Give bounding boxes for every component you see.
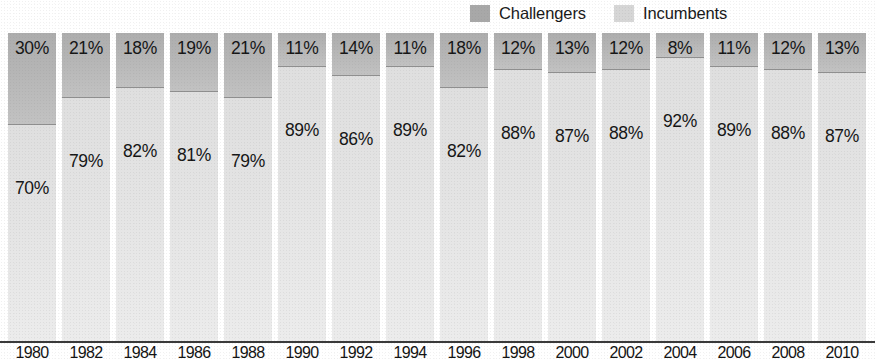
bar-segment-label-incumbents: 79% bbox=[62, 151, 110, 172]
x-axis-tick-label: 1986 bbox=[168, 344, 220, 359]
bar-segment-label-challengers: 12% bbox=[764, 38, 812, 59]
bar-segment-label-incumbents: 89% bbox=[386, 120, 434, 141]
x-axis-tick-label: 1988 bbox=[222, 344, 274, 359]
x-axis-tick-label: 2002 bbox=[600, 344, 652, 359]
bar-segment-challengers: 18% bbox=[116, 33, 164, 88]
bar-segment-label-challengers: 12% bbox=[494, 38, 542, 59]
bar-segment-incumbents: 86% bbox=[332, 76, 380, 341]
stacked-bar: 13%87% bbox=[818, 33, 866, 341]
stacked-bar-chart-figure: Challengers Incumbents 30%70%21%79%18%82… bbox=[0, 0, 875, 359]
bar-segment-label-incumbents: 82% bbox=[440, 141, 488, 162]
bar-column: 21%79% bbox=[224, 33, 272, 341]
stacked-bar: 8%92% bbox=[656, 33, 704, 341]
bar-column: 8%92% bbox=[656, 33, 704, 341]
bar-segment-challengers: 21% bbox=[62, 33, 110, 98]
bar-segment-label-incumbents: 82% bbox=[116, 141, 164, 162]
bar-segment-challengers: 12% bbox=[494, 33, 542, 70]
bar-segment-label-incumbents: 81% bbox=[170, 145, 218, 166]
bar-segment-label-incumbents: 70% bbox=[8, 178, 56, 199]
stacked-bar: 11%89% bbox=[278, 33, 326, 341]
x-axis-tick-label: 1990 bbox=[276, 344, 328, 359]
stacked-bar: 11%89% bbox=[710, 33, 758, 341]
bar-segment-label-incumbents: 88% bbox=[764, 123, 812, 144]
x-axis-tick-label: 1980 bbox=[6, 344, 58, 359]
bar-segment-label-incumbents: 79% bbox=[224, 151, 272, 172]
stacked-bar: 13%87% bbox=[548, 33, 596, 341]
bar-column: 18%82% bbox=[440, 33, 488, 341]
stacked-bar: 18%82% bbox=[440, 33, 488, 341]
bar-segment-label-challengers: 21% bbox=[224, 38, 272, 59]
legend-swatch-incumbents-icon bbox=[614, 5, 634, 22]
stacked-bar: 12%88% bbox=[494, 33, 542, 341]
bar-column: 12%88% bbox=[602, 33, 650, 341]
bar-segment-label-incumbents: 87% bbox=[818, 126, 866, 147]
bar-segment-challengers: 18% bbox=[440, 33, 488, 88]
bar-segment-challengers: 12% bbox=[602, 33, 650, 70]
bar-segment-challengers: 13% bbox=[548, 33, 596, 73]
bar-segment-incumbents: 82% bbox=[116, 88, 164, 341]
bar-segment-incumbents: 89% bbox=[710, 67, 758, 341]
x-axis-tick-label: 1994 bbox=[384, 344, 436, 359]
bar-segment-challengers: 11% bbox=[386, 33, 434, 67]
x-axis-tick-label: 2008 bbox=[762, 344, 814, 359]
x-axis-tick-labels: 1980198219841986198819901992199419961998… bbox=[8, 344, 872, 359]
bar-segment-label-challengers: 11% bbox=[278, 38, 326, 59]
bar-column: 11%89% bbox=[710, 33, 758, 341]
stacked-bar: 11%89% bbox=[386, 33, 434, 341]
stacked-bar: 12%88% bbox=[764, 33, 812, 341]
legend-label-incumbents: Incumbents bbox=[643, 4, 727, 23]
bar-segment-label-incumbents: 87% bbox=[548, 126, 596, 147]
x-axis-tick-label: 2006 bbox=[708, 344, 760, 359]
bar-segment-incumbents: 88% bbox=[764, 70, 812, 341]
bar-segment-label-challengers: 18% bbox=[440, 38, 488, 59]
legend-label-challengers: Challengers bbox=[499, 4, 586, 23]
x-axis-tick-label: 2004 bbox=[654, 344, 706, 359]
stacked-bar: 18%82% bbox=[116, 33, 164, 341]
bar-column: 18%82% bbox=[116, 33, 164, 341]
bar-segment-challengers: 21% bbox=[224, 33, 272, 98]
x-axis-tick-label: 2000 bbox=[546, 344, 598, 359]
bar-segment-label-incumbents: 86% bbox=[332, 129, 380, 150]
bar-segment-label-incumbents: 92% bbox=[656, 111, 704, 132]
bar-segment-label-challengers: 11% bbox=[386, 38, 434, 59]
legend-entry-incumbents: Incumbents bbox=[614, 4, 727, 23]
x-axis-tick-label: 1996 bbox=[438, 344, 490, 359]
bar-segment-challengers: 19% bbox=[170, 33, 218, 92]
legend-swatch-challengers-icon bbox=[470, 5, 490, 22]
bar-segment-challengers: 14% bbox=[332, 33, 380, 76]
stacked-bar: 30%70% bbox=[8, 33, 56, 341]
bar-segment-label-challengers: 8% bbox=[656, 38, 704, 59]
stacked-bar: 19%81% bbox=[170, 33, 218, 341]
bar-column: 13%87% bbox=[548, 33, 596, 341]
bar-segment-label-challengers: 14% bbox=[332, 38, 380, 59]
bar-column: 13%87% bbox=[818, 33, 866, 341]
bar-column: 21%79% bbox=[62, 33, 110, 341]
bar-segment-challengers: 8% bbox=[656, 33, 704, 58]
bar-segment-incumbents: 87% bbox=[548, 73, 596, 341]
bar-segment-incumbents: 79% bbox=[224, 98, 272, 341]
bar-column: 11%89% bbox=[278, 33, 326, 341]
x-axis-tick-label: 2010 bbox=[816, 344, 868, 359]
bar-segment-incumbents: 89% bbox=[278, 67, 326, 341]
bar-segment-incumbents: 92% bbox=[656, 58, 704, 341]
x-axis-tick-label: 1984 bbox=[114, 344, 166, 359]
bar-column: 14%86% bbox=[332, 33, 380, 341]
bar-segment-incumbents: 88% bbox=[602, 70, 650, 341]
x-axis-line bbox=[0, 341, 875, 343]
bar-segment-incumbents: 70% bbox=[8, 125, 56, 341]
bar-segment-label-challengers: 30% bbox=[8, 38, 56, 59]
bar-segment-challengers: 13% bbox=[818, 33, 866, 73]
bar-column: 12%88% bbox=[494, 33, 542, 341]
stacked-bar: 21%79% bbox=[224, 33, 272, 341]
bar-segment-label-incumbents: 89% bbox=[278, 120, 326, 141]
bar-segment-challengers: 11% bbox=[278, 33, 326, 67]
bar-segment-incumbents: 87% bbox=[818, 73, 866, 341]
bar-segment-label-challengers: 19% bbox=[170, 38, 218, 59]
bar-segment-challengers: 30% bbox=[8, 33, 56, 125]
bar-column: 12%88% bbox=[764, 33, 812, 341]
bar-segment-label-challengers: 11% bbox=[710, 38, 758, 59]
bar-segment-label-incumbents: 88% bbox=[494, 123, 542, 144]
bar-segment-incumbents: 89% bbox=[386, 67, 434, 341]
bar-segment-incumbents: 79% bbox=[62, 98, 110, 341]
bar-segment-label-challengers: 13% bbox=[818, 38, 866, 59]
